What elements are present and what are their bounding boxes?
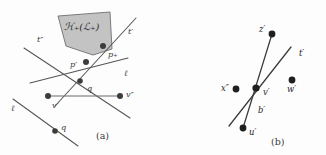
label-p-prime: p′ <box>70 59 77 69</box>
label-q-segment: q <box>87 83 92 93</box>
label-v-double-prime: v″ <box>126 89 134 99</box>
point-v-prime <box>45 93 51 99</box>
point-w-prime <box>289 77 296 84</box>
geometry-figure: ℋ₊(ℒ₊) t″ t′ ℓ ℓ q p₊ p′ v′ v″ q (a) <box>0 0 326 155</box>
label-u-prime: u′ <box>249 127 256 137</box>
point-v-prime-b <box>252 84 259 91</box>
label-w-prime: w′ <box>287 84 296 94</box>
label-ell-left: ℓ <box>11 103 15 113</box>
label-x-double-prime: x″ <box>221 83 230 93</box>
point-mid-ell <box>77 78 83 84</box>
panel-a: ℋ₊(ℒ₊) t″ t′ ℓ ℓ q p₊ p′ v′ v″ q (a) <box>11 12 136 146</box>
point-u-prime <box>240 125 247 132</box>
label-ell-right: ℓ <box>124 68 128 78</box>
point-x-double-prime <box>233 86 240 93</box>
point-v-double-prime <box>117 93 123 99</box>
point-q <box>52 128 58 134</box>
point-p-prime <box>83 59 89 65</box>
label-v-prime: v′ <box>52 100 59 110</box>
figure-root: ℋ₊(ℒ₊) t″ t′ ℓ ℓ q p₊ p′ v′ v″ q (a) <box>0 0 326 155</box>
panel-b-caption: (b) <box>271 136 285 147</box>
label-t-prime: t′ <box>128 26 133 36</box>
point-p-plus <box>100 43 106 49</box>
label-p-plus: p₊ <box>108 49 118 59</box>
label-v-prime-b: v′ <box>263 87 270 97</box>
panel-b: z′ x″ v′ w′ u′ t′ b′ (b) <box>221 24 304 147</box>
point-z-prime <box>269 31 276 38</box>
panel-a-caption: (a) <box>96 130 109 141</box>
line-ell-left <box>13 99 78 146</box>
label-q-point: q <box>61 122 66 132</box>
region-label-h-plus: ℋ₊(ℒ₊) <box>64 21 99 32</box>
label-z-prime: z′ <box>258 24 265 34</box>
label-t-prime-b: t′ <box>299 48 304 58</box>
label-t-double-prime: t″ <box>37 34 43 44</box>
label-b-prime: b′ <box>258 105 265 115</box>
